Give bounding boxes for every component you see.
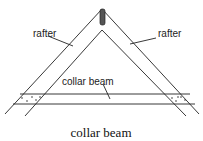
rafter-right-label: rafter <box>158 28 182 39</box>
rafter-right-leader <box>130 38 156 44</box>
left-rafter-outer-edge <box>5 9 102 114</box>
right-rafter-inner-edge <box>102 30 186 116</box>
collar-beam-diagram: rafter rafter collar beam collar beam <box>0 0 203 141</box>
rafter-left-label: rafter <box>33 28 57 39</box>
left-rafter-inner-edge <box>25 30 102 116</box>
ridge-peg-icon <box>100 9 105 25</box>
figure-caption: collar beam <box>71 125 132 140</box>
right-rafter-outer-edge <box>102 9 199 114</box>
nail-dots-left-icon <box>21 96 41 102</box>
collar-beam-label: collar beam <box>62 76 114 87</box>
